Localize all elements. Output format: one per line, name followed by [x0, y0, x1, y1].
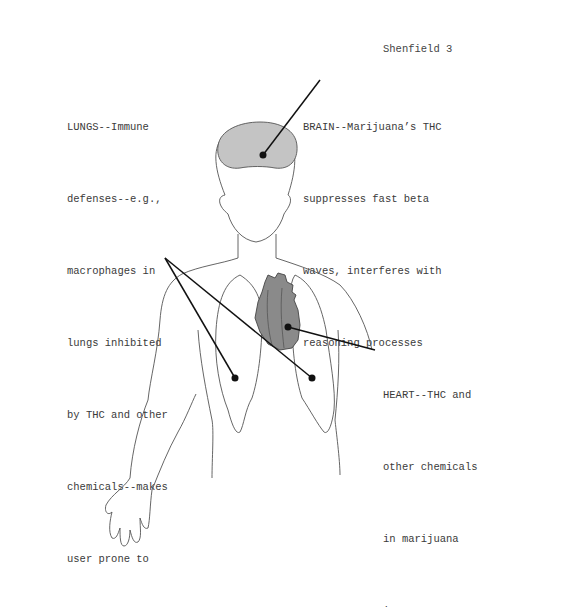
- lung-left-pointer-dot: [232, 375, 239, 382]
- brain-icon: [218, 122, 297, 168]
- heart-pointer-dot: [285, 324, 292, 331]
- brain-pointer-dot: [260, 152, 267, 159]
- anatomy-figure: [0, 0, 562, 608]
- body-outline-icon: [105, 129, 372, 546]
- lung-right-pointer-dot: [309, 375, 316, 382]
